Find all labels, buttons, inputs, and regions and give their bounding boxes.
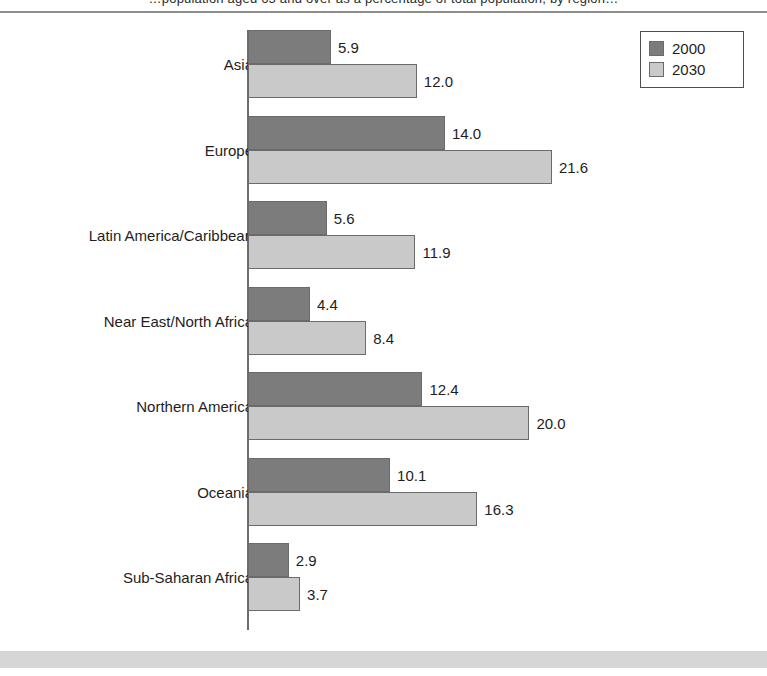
- bar-2000[interactable]: 2.9: [248, 543, 289, 577]
- chart-legend: 2000 2030: [640, 31, 744, 88]
- bar-2030[interactable]: 16.3: [248, 492, 477, 526]
- legend-item-2030[interactable]: 2030: [649, 59, 735, 80]
- legend-item-2000[interactable]: 2000: [649, 38, 735, 59]
- bar-rect: [248, 30, 331, 64]
- category-label: Near East/North Africa: [13, 314, 253, 329]
- category-label: Latin America/Caribbean: [13, 228, 253, 243]
- bar-rect: [248, 201, 327, 235]
- category-label: Oceania: [13, 485, 253, 500]
- bar-rect: [248, 116, 445, 150]
- bar-rect: [248, 458, 390, 492]
- square-swatch-icon: [649, 41, 664, 56]
- bar-value-label: 14.0: [452, 125, 481, 140]
- bar-2000[interactable]: 12.4: [248, 372, 422, 406]
- grouped-bar-chart: Asia5.912.0Europe14.021.6Latin America/C…: [0, 14, 767, 650]
- category-label: Sub-Saharan Africa: [13, 570, 253, 585]
- bar-group: Oceania10.116.3: [0, 458, 767, 526]
- category-label: Europe: [13, 143, 253, 158]
- bar-rect: [248, 543, 289, 577]
- bar-2000[interactable]: 5.6: [248, 201, 327, 235]
- bar-group: Northern America12.420.0: [0, 372, 767, 440]
- bar-rect: [248, 235, 415, 269]
- bar-rect: [248, 577, 300, 611]
- bar-2000[interactable]: 10.1: [248, 458, 390, 492]
- bar-rect: [248, 287, 310, 321]
- bar-value-label: 5.9: [338, 40, 359, 55]
- legend-label: 2000: [672, 41, 705, 56]
- bar-2000[interactable]: 4.4: [248, 287, 310, 321]
- bar-2030[interactable]: 11.9: [248, 235, 415, 269]
- bar-2030[interactable]: 21.6: [248, 150, 552, 184]
- bar-group: Sub-Saharan Africa2.93.7: [0, 543, 767, 611]
- bar-2030[interactable]: 12.0: [248, 64, 417, 98]
- category-label: Asia: [13, 57, 253, 72]
- bar-value-label: 12.0: [424, 74, 453, 89]
- bottom-gray-band: [0, 651, 767, 668]
- clipped-header-text: …population aged 65 and over as a percen…: [0, 0, 767, 7]
- bar-rect: [248, 372, 422, 406]
- bar-group: Latin America/Caribbean5.611.9: [0, 201, 767, 269]
- bar-2000[interactable]: 14.0: [248, 116, 445, 150]
- category-label: Northern America: [13, 399, 253, 414]
- bar-rect: [248, 150, 552, 184]
- bar-value-label: 21.6: [559, 159, 588, 174]
- bar-rect: [248, 64, 417, 98]
- bar-value-label: 3.7: [307, 587, 328, 602]
- bar-2030[interactable]: 3.7: [248, 577, 300, 611]
- square-swatch-icon: [649, 62, 664, 77]
- bar-rect: [248, 321, 366, 355]
- bar-value-label: 11.9: [422, 245, 450, 260]
- bar-value-label: 2.9: [296, 553, 317, 568]
- bar-value-label: 4.4: [317, 296, 338, 311]
- bar-2030[interactable]: 20.0: [248, 406, 529, 440]
- bar-value-label: 16.3: [484, 501, 513, 516]
- bar-group: Near East/North Africa4.48.4: [0, 287, 767, 355]
- bar-2030[interactable]: 8.4: [248, 321, 366, 355]
- bar-rect: [248, 492, 477, 526]
- bar-value-label: 10.1: [397, 467, 426, 482]
- bar-rect: [248, 406, 529, 440]
- bar-value-label: 12.4: [429, 382, 458, 397]
- bar-value-label: 8.4: [373, 330, 394, 345]
- bar-group: Europe14.021.6: [0, 116, 767, 184]
- top-horizontal-rule: [0, 11, 767, 13]
- bar-2000[interactable]: 5.9: [248, 30, 331, 64]
- bar-value-label: 5.6: [334, 211, 355, 226]
- legend-label: 2030: [672, 62, 705, 77]
- bar-value-label: 20.0: [536, 416, 565, 431]
